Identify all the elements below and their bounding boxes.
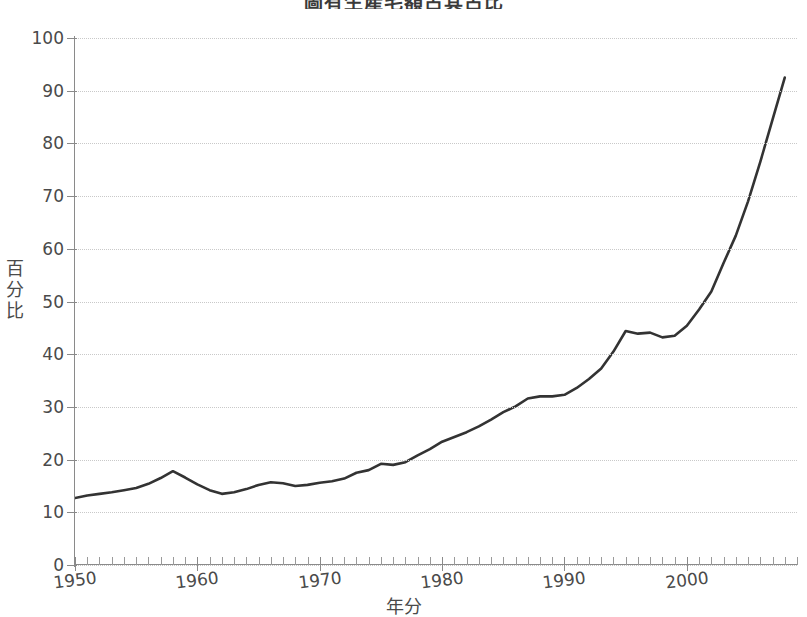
x-axis-tick-minor [626, 557, 627, 565]
x-axis-tick-minor [662, 557, 663, 565]
x-axis-tick-label: 1980 [419, 567, 464, 592]
x-axis-tick-minor [405, 557, 406, 565]
gridline [75, 407, 797, 408]
x-axis-tick-minor [467, 557, 468, 565]
x-axis-tick-label: 2000 [664, 567, 709, 592]
x-axis-tick-minor [381, 557, 382, 565]
x-axis-tick-minor [675, 557, 676, 565]
x-axis-tick-label: 1950 [52, 567, 97, 592]
x-axis-tick-minor [454, 557, 455, 565]
gridline [75, 249, 797, 250]
x-axis-tick-minor [516, 557, 517, 565]
y-axis-tick-label: 20 [8, 450, 64, 470]
x-axis-tick-minor [356, 557, 357, 565]
x-axis-tick-minor [393, 557, 394, 565]
y-axis-tick-mark [67, 354, 77, 355]
x-axis-tick-minor [234, 557, 235, 565]
x-axis-tick-minor [295, 557, 296, 565]
y-axis-tick-label: 40 [8, 344, 64, 364]
x-axis-tick-minor [369, 557, 370, 565]
x-axis-tick-label: 1970 [297, 567, 342, 592]
x-axis-tick-minor [185, 557, 186, 565]
y-axis-tick-label: 80 [8, 133, 64, 153]
x-axis-tick-minor [503, 557, 504, 565]
x-axis-tick-minor [161, 557, 162, 565]
x-axis-tick-minor [711, 557, 712, 565]
y-axis-tick-mark [67, 512, 77, 513]
gridline [75, 512, 797, 513]
x-axis-tick-minor [736, 557, 737, 565]
x-axis-tick-minor [210, 557, 211, 565]
y-axis-tick-label: 10 [8, 502, 64, 522]
chart-title: 圖有生產毛額占其占比 [0, 0, 807, 9]
x-axis-tick-minor [344, 557, 345, 565]
y-axis-tick-mark [67, 91, 77, 92]
x-axis-tick-minor [246, 557, 247, 565]
x-axis-tick-minor [99, 557, 100, 565]
x-axis-tick-minor [283, 557, 284, 565]
y-axis-title-char: 比 [4, 300, 26, 321]
x-axis-tick-minor [112, 557, 113, 565]
gridline [75, 460, 797, 461]
chart-page: 圖有生產毛額占其占比 0102030405060708090100 195019… [0, 0, 807, 617]
x-axis-tick-minor [589, 557, 590, 565]
y-axis-tick-mark [67, 302, 77, 303]
x-axis-tick-minor [308, 557, 309, 565]
x-axis-line [74, 564, 798, 565]
x-axis-tick-minor [552, 557, 553, 565]
x-axis-tick-minor [173, 557, 174, 565]
x-axis-title: 年分 [0, 592, 807, 617]
x-axis-tick-minor [785, 557, 786, 565]
gridline [75, 354, 797, 355]
y-axis-tick-label: 60 [8, 239, 64, 259]
y-axis-tick-label: 90 [8, 81, 64, 101]
x-axis-tick-minor [418, 557, 419, 565]
x-axis-tick-minor [748, 557, 749, 565]
y-axis-tick-mark [67, 460, 77, 461]
x-axis-tick-minor [601, 557, 602, 565]
x-axis-tick-minor [638, 557, 639, 565]
gridline [75, 565, 797, 566]
x-axis-tick-minor [148, 557, 149, 565]
x-axis-tick-minor [479, 557, 480, 565]
x-axis-tick-minor [87, 557, 88, 565]
x-axis-tick-minor [332, 557, 333, 565]
x-axis-tick-minor [773, 557, 774, 565]
y-axis-tick-label: 30 [8, 397, 64, 417]
x-axis-tick-minor [136, 557, 137, 565]
y-axis-tick-label: 70 [8, 186, 64, 206]
x-axis-tick-minor [430, 557, 431, 565]
gridline [75, 143, 797, 144]
x-axis-tick-minor [724, 557, 725, 565]
x-axis-tick-minor [540, 557, 541, 565]
x-axis-tick-minor [528, 557, 529, 565]
x-axis-tick-minor [491, 557, 492, 565]
y-axis-tick-mark [67, 196, 77, 197]
gridline [75, 91, 797, 92]
x-axis-tick-minor [271, 557, 272, 565]
x-axis-tick-minor [124, 557, 125, 565]
y-axis-title: 百分比 [4, 258, 26, 321]
x-axis-tick-minor [699, 557, 700, 565]
y-axis-tick-mark [67, 249, 77, 250]
x-axis-tick-minor [259, 557, 260, 565]
y-axis-tick-mark [67, 407, 77, 408]
x-axis-tick-minor [613, 557, 614, 565]
y-axis-title-char: 百 [4, 258, 26, 279]
x-axis-tick-minor [650, 557, 651, 565]
x-axis-tick-label: 1990 [542, 567, 587, 592]
x-axis-tick-minor [222, 557, 223, 565]
y-axis-tick-mark [67, 38, 77, 39]
gridline [75, 38, 797, 39]
x-axis-tick-label: 1960 [175, 567, 220, 592]
x-axis-tick-minor [797, 557, 798, 565]
y-axis-title-char: 分 [4, 279, 26, 300]
gridline [75, 196, 797, 197]
y-axis-tick-mark [67, 143, 77, 144]
x-axis-tick-minor [760, 557, 761, 565]
y-axis-tick-label: 100 [8, 28, 64, 48]
x-axis-tick-minor [577, 557, 578, 565]
gridline [75, 302, 797, 303]
